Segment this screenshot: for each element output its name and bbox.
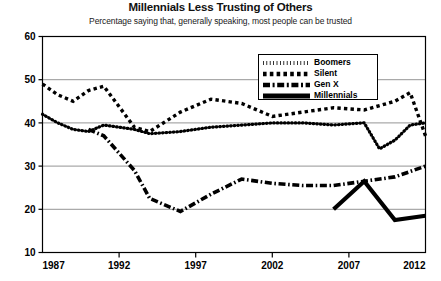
legend-item-boomers[interactable]: Boomers <box>263 57 351 68</box>
y-tick-label: 20 <box>24 204 36 215</box>
y-tick-label: 60 <box>24 31 36 42</box>
legend-swatch-icon <box>263 80 310 89</box>
legend-swatch-icon <box>263 69 310 78</box>
legend-item-gen-x[interactable]: Gen X <box>263 79 339 90</box>
y-tick-label: 40 <box>24 118 36 129</box>
chart-container: Millennials Less Trusting of Others Perc… <box>0 0 441 281</box>
legend-swatch-icon <box>263 91 310 100</box>
legend-item-silent[interactable]: Silent <box>263 68 337 79</box>
x-tick-label: 2002 <box>261 260 284 271</box>
series-line-boomers <box>43 114 426 149</box>
y-tick-label: 50 <box>24 74 36 85</box>
x-tick-label: 1987 <box>43 260 66 271</box>
data-series-layer <box>43 84 426 220</box>
legend-item-millennials[interactable]: Millennials <box>263 90 357 101</box>
y-axis-ticks: 102030405060 <box>24 31 42 258</box>
legend-label: Millennials <box>314 91 357 100</box>
legend-label: Silent <box>314 69 337 78</box>
chart-legend: BoomersSilentGen XMillennials <box>258 54 378 100</box>
series-line-millennials <box>334 181 426 220</box>
legend-label: Gen X <box>314 80 339 89</box>
legend-label: Boomers <box>314 58 351 67</box>
y-tick-label: 10 <box>24 247 36 258</box>
chart-plot-area: 102030405060 198719921997200220072012 <box>0 0 441 281</box>
x-axis-ticks: 198719921997200220072012 <box>43 253 426 271</box>
x-tick-label: 2012 <box>403 260 426 271</box>
x-tick-label: 1992 <box>108 260 131 271</box>
y-tick-label: 30 <box>24 161 36 172</box>
x-tick-label: 1997 <box>185 260 208 271</box>
legend-swatch-icon <box>263 58 310 67</box>
x-tick-label: 2007 <box>338 260 361 271</box>
